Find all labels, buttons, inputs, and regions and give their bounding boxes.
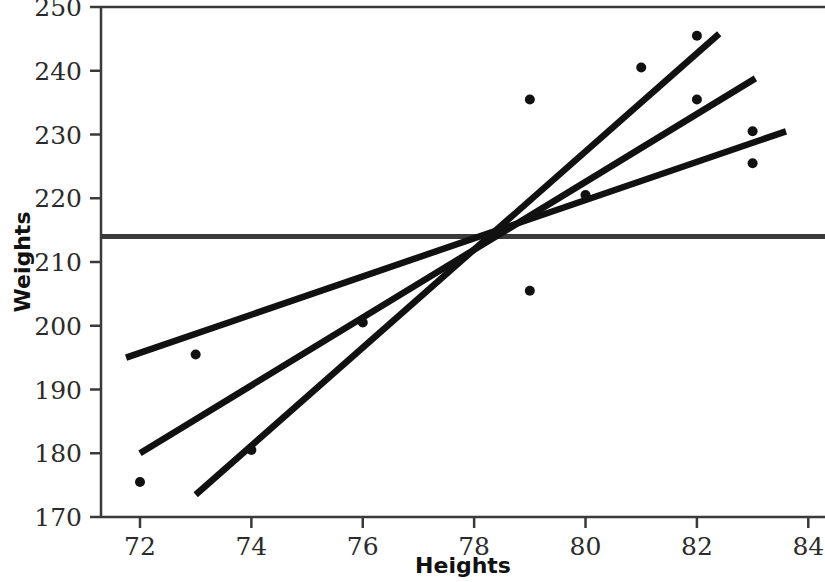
- y-axis-tick-label: 180: [34, 439, 82, 468]
- scatter-point: [692, 94, 702, 104]
- y-axis-ticks: [90, 7, 101, 517]
- scatter-point: [636, 63, 646, 73]
- y-axis-tick-labels: 170180190200210220230240250: [34, 0, 82, 532]
- x-axis-tick-label: 84: [792, 532, 824, 561]
- y-axis-tick-label: 240: [34, 57, 82, 86]
- y-axis-tick-label: 170: [34, 503, 82, 532]
- scatter-point: [191, 349, 201, 359]
- scatter-point: [581, 190, 591, 200]
- x-axis-title: Heights: [415, 553, 511, 578]
- y-axis-tick-label: 230: [34, 121, 82, 150]
- x-axis-tick-label: 76: [347, 532, 379, 561]
- scatter-point: [748, 126, 758, 136]
- x-axis-tick-label: 74: [235, 532, 267, 561]
- x-axis-tick-label: 82: [681, 532, 713, 561]
- x-axis-tick-label: 80: [570, 532, 602, 561]
- y-axis-tick-label: 220: [34, 184, 82, 213]
- y-axis-tick-label: 200: [34, 312, 82, 341]
- scatter-point: [246, 445, 256, 455]
- scatter-point: [748, 158, 758, 168]
- scatter-point: [525, 286, 535, 296]
- y-axis-tick-label: 250: [34, 0, 82, 22]
- y-axis-title: Weights: [10, 212, 35, 313]
- scatter-plot-figure: 170180190200210220230240250 727476788082…: [0, 0, 825, 582]
- x-axis-ticks: [140, 517, 808, 528]
- scatter-point: [358, 318, 368, 328]
- chart-canvas: 170180190200210220230240250 727476788082…: [0, 0, 825, 582]
- scatter-point: [525, 94, 535, 104]
- scatter-point: [135, 477, 145, 487]
- scatter-point: [692, 31, 702, 41]
- x-axis-tick-label: 72: [124, 532, 156, 561]
- y-axis-tick-label: 210: [34, 248, 82, 277]
- y-axis-tick-label: 190: [34, 376, 82, 405]
